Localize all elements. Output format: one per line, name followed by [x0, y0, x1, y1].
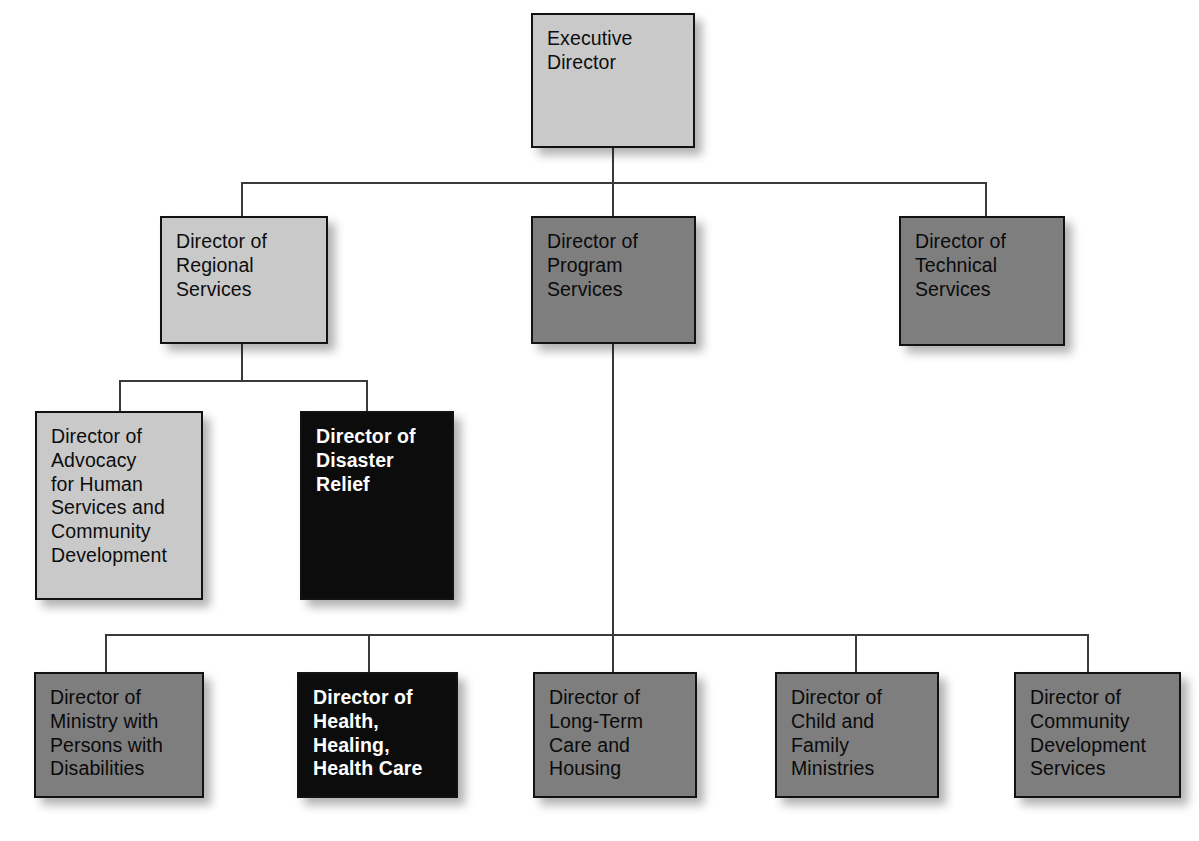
node-director-child-family[interactable]: Director of Child and Family Ministries	[775, 672, 939, 798]
connector-drop-child-family	[855, 634, 857, 674]
connector-drop-technical	[985, 182, 987, 216]
node-director-health-healing[interactable]: Director of Health, Healing, Health Care	[297, 672, 458, 798]
connector-program-stem	[612, 344, 614, 674]
connector-drop-regional	[241, 182, 243, 216]
connector-drop-disaster-relief	[366, 380, 368, 411]
connector-drop-ministry	[105, 634, 107, 674]
node-executive-director[interactable]: Executive Director	[531, 13, 695, 148]
connector-level4-bus	[105, 634, 1087, 636]
connector-drop-community-development	[1087, 634, 1089, 674]
connector-level2-bus	[241, 182, 987, 184]
connector-regional-stem	[241, 344, 243, 382]
node-director-technical-services[interactable]: Director of Technical Services	[899, 216, 1065, 346]
connector-drop-program	[612, 182, 614, 216]
connector-drop-health	[368, 634, 370, 674]
node-director-advocacy[interactable]: Director of Advocacy for Human Services …	[35, 411, 203, 600]
node-director-regional-services[interactable]: Director of Regional Services	[160, 216, 328, 344]
org-chart: Executive Director Director of Regional …	[0, 0, 1199, 841]
connector-drop-advocacy	[119, 380, 121, 411]
connector-exec-stem	[612, 148, 614, 184]
node-director-program-services[interactable]: Director of Program Services	[531, 216, 696, 344]
node-director-community-development[interactable]: Director of Community Development Servic…	[1014, 672, 1181, 798]
node-director-long-term-care[interactable]: Director of Long-Term Care and Housing	[533, 672, 697, 798]
connector-level3-bus	[119, 380, 368, 382]
node-director-ministry-disabilities[interactable]: Director of Ministry with Persons with D…	[34, 672, 204, 798]
node-director-disaster-relief[interactable]: Director of Disaster Relief	[300, 411, 454, 600]
